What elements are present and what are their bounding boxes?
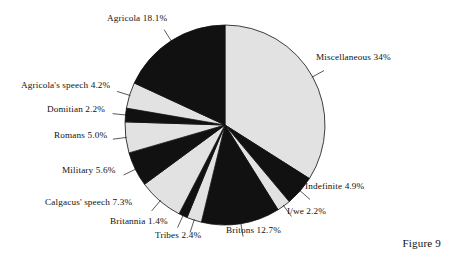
slice-label-indefinite: Indefinite 4.9% [305, 182, 364, 191]
leader-line [113, 114, 127, 115]
leader-line [312, 71, 324, 78]
figure-caption: Figure 9 [402, 237, 441, 249]
leader-line [117, 91, 130, 95]
leader-line [178, 215, 184, 228]
leader-line [164, 30, 172, 42]
slice-label-domitian: Domitian 2.2% [47, 105, 105, 114]
slice-label-i-we: I/we 2.2% [287, 207, 326, 216]
leader-line [124, 169, 137, 175]
slice-label-miscellaneous: Miscellaneous 34% [316, 53, 391, 62]
figure-container: Agricola 18.1% Miscellaneous 34% Agricol… [0, 0, 451, 263]
slice-label-britannia: Britannia 1.4% [110, 217, 168, 226]
slice-label-britons: Britons 12.7% [226, 226, 281, 235]
slice-label-agricolas-speech: Agricola's speech 4.2% [21, 81, 110, 90]
leader-line [152, 200, 161, 211]
slice-label-military: Military 5.6% [62, 166, 116, 175]
slice-label-romans: Romans 5.0% [54, 131, 107, 140]
leader-line [113, 137, 127, 139]
slice-label-tribes: Tribes 2.4% [155, 231, 201, 240]
slice-label-calgacus-speech: Calgacus' speech 7.3% [45, 198, 132, 207]
slice-label-agricola: Agricola 18.1% [107, 14, 167, 23]
pie-slices [125, 25, 325, 225]
leader-line [299, 190, 310, 199]
